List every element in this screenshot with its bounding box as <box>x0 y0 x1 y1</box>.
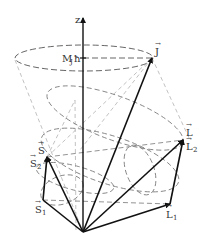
ls-cone-line-2 <box>80 58 152 150</box>
svg-text:1: 1 <box>42 209 46 217</box>
svg-text:S: S <box>38 145 45 156</box>
z-axis-label: z <box>75 14 80 25</box>
svg-text:2: 2 <box>193 146 197 154</box>
svg-text:1: 1 <box>173 214 177 222</box>
j-vector <box>83 58 152 232</box>
mj-hbar-label: M J ħ <box>62 53 81 66</box>
svg-text:2: 2 <box>37 163 41 171</box>
s1-vector <box>43 200 83 232</box>
l1-label: → L 1 <box>166 202 177 222</box>
svg-text:J: J <box>154 46 159 57</box>
svg-text:L: L <box>166 209 173 220</box>
s-label: → S <box>38 139 45 156</box>
dash-s-l <box>47 140 183 157</box>
dash-s1-l1 <box>43 200 170 204</box>
svg-text:ħ: ħ <box>74 53 81 64</box>
l2-label: → L 2 <box>186 135 197 154</box>
j-label: → J <box>154 40 161 57</box>
s-vector <box>47 157 83 232</box>
j-cone-right <box>152 58 190 140</box>
svg-text:L: L <box>186 141 193 152</box>
svg-text:S: S <box>30 158 37 169</box>
inner-ellipse <box>118 141 162 199</box>
svg-text:J: J <box>69 58 73 66</box>
ls-cone-line-1 <box>47 58 152 157</box>
svg-text:S: S <box>35 204 42 215</box>
l-precession-ellipse-2 <box>34 115 186 205</box>
l1-vector <box>83 204 170 232</box>
vector-coupling-diagram: z M J ħ → J → L → L 2 → L 1 → S → S 2 → … <box>0 0 209 244</box>
